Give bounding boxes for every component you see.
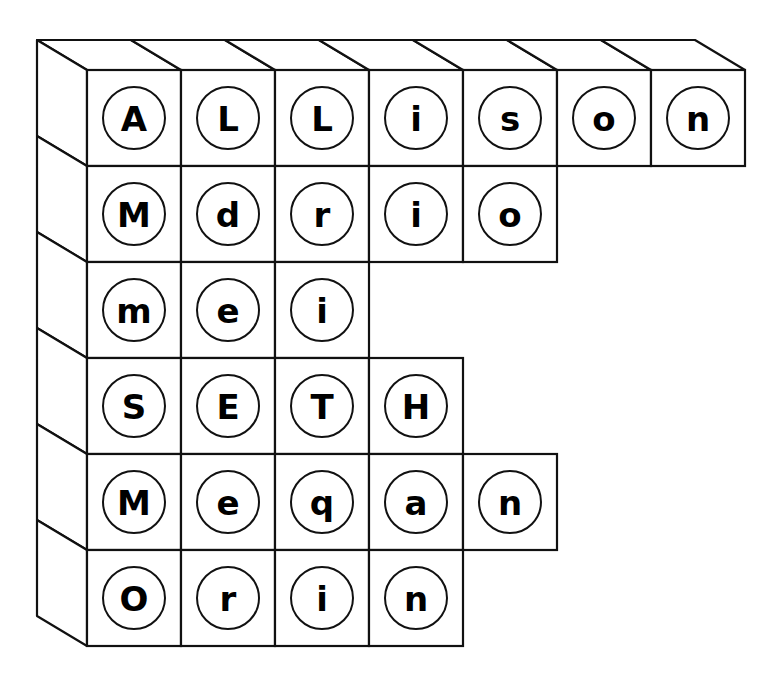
letter-glyph: L [311, 99, 333, 139]
letter-glyph: r [220, 579, 237, 619]
letter-glyph: M [117, 195, 151, 235]
letter-cube: s [463, 70, 557, 166]
cube-row-mdrio: Mdrio [87, 166, 557, 262]
letter-cube: e [181, 262, 275, 358]
letter-glyph: m [116, 291, 151, 331]
letter-glyph: i [410, 195, 422, 235]
cube-row-orin: Orin [87, 550, 463, 646]
letter-glyph: i [316, 579, 328, 619]
letter-cube: d [181, 166, 275, 262]
letter-glyph: L [217, 99, 239, 139]
letter-cube: i [275, 262, 369, 358]
letter-cube: i [369, 166, 463, 262]
letter-cube: L [275, 70, 369, 166]
letter-glyph: H [402, 387, 430, 427]
letter-cube: n [369, 550, 463, 646]
letter-cube: E [181, 358, 275, 454]
letter-glyph: e [216, 291, 239, 331]
letter-glyph: i [316, 291, 328, 331]
letter-glyph: A [121, 99, 148, 139]
letter-cube: O [87, 550, 181, 646]
letter-glyph: e [216, 483, 239, 523]
letter-cube: L [181, 70, 275, 166]
letter-glyph: a [405, 483, 428, 523]
letter-glyph: O [120, 579, 149, 619]
letter-cube: M [87, 454, 181, 550]
cube-row-allison: ALLison [87, 70, 745, 166]
letter-cube: M [87, 166, 181, 262]
letter-cube: i [275, 550, 369, 646]
letter-glyph: o [592, 99, 615, 139]
letter-glyph: r [314, 195, 331, 235]
letter-glyph: i [410, 99, 422, 139]
letter-cube: A [87, 70, 181, 166]
letter-glyph: T [310, 387, 334, 427]
letter-cube: i [369, 70, 463, 166]
letter-glyph: n [686, 99, 710, 139]
letter-glyph: n [404, 579, 428, 619]
cube-row-mei: mei [87, 262, 369, 358]
letter-cube: m [87, 262, 181, 358]
cube-grid: ALLisonMdriomeiSETHMeqanOrin [0, 0, 776, 682]
letter-cube: T [275, 358, 369, 454]
letter-glyph: S [122, 387, 147, 427]
cube-top-faces [37, 40, 745, 70]
letter-glyph: E [216, 387, 239, 427]
letter-cube: r [275, 166, 369, 262]
letter-cube: n [463, 454, 557, 550]
letter-glyph: o [498, 195, 521, 235]
letter-cube: n [651, 70, 745, 166]
letter-cube: H [369, 358, 463, 454]
letter-cube: r [181, 550, 275, 646]
letter-cube: o [557, 70, 651, 166]
letter-glyph: q [310, 483, 334, 523]
letter-glyph: s [500, 99, 520, 139]
letter-cube: a [369, 454, 463, 550]
cube-letter-diagram: ALLisonMdriomeiSETHMeqanOrin [0, 0, 776, 682]
cube-row-seth: SETH [87, 358, 463, 454]
letter-glyph: n [498, 483, 522, 523]
letter-glyph: d [216, 195, 240, 235]
letter-cube: o [463, 166, 557, 262]
cube-side-faces [37, 40, 87, 646]
letter-cube: q [275, 454, 369, 550]
letter-cube: S [87, 358, 181, 454]
cube-row-meqan: Meqan [87, 454, 557, 550]
letter-cube: e [181, 454, 275, 550]
letter-glyph: M [117, 483, 151, 523]
